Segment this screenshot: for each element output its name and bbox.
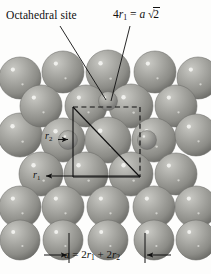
diag-a: a — [139, 8, 145, 20]
large-radius-label: r1 — [33, 170, 40, 181]
octahedral-site-label: Octahedral site — [6, 10, 77, 22]
atom-sphere — [176, 220, 211, 260]
large-atom-spheres — [0, 50, 211, 260]
r2-sub: 2 — [49, 135, 52, 142]
a-plus: + 2 — [95, 248, 112, 260]
atom-sphere — [0, 220, 40, 260]
figure-graphics — [0, 0, 211, 274]
figure-octahedral-site: Octahedral site 4r1 = a √2 r2 r1 a = 2r1… — [0, 0, 211, 274]
a-r2-sub: 2 — [116, 253, 120, 262]
octahedral-site-sphere — [99, 92, 118, 111]
diagonal-relation-label: 4r1 = a √2 — [113, 9, 160, 22]
sphere-layer — [0, 50, 211, 260]
small-radius-label: r2 — [45, 131, 52, 142]
a-eq: = 2 — [70, 248, 87, 260]
diag-eq: = — [127, 8, 139, 20]
r1-sub: 1 — [37, 174, 40, 181]
atom-sphere — [134, 220, 174, 260]
lattice-parameter-label: a = 2r1 + 2r2 — [64, 249, 120, 261]
diag-two: 2 — [153, 7, 160, 20]
